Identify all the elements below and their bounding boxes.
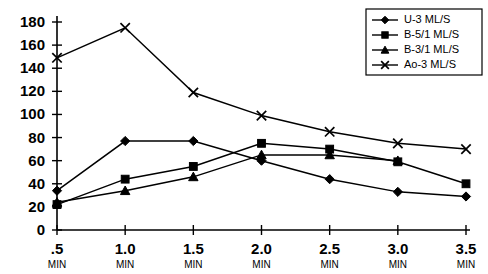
legend-item-label: U-3 ML/S (404, 13, 450, 25)
legend-item-label: B-5/1 ML/S (404, 28, 459, 40)
cross-marker-icon (257, 111, 266, 120)
diamond-marker-icon (461, 192, 470, 201)
y-tick-label: 120 (20, 82, 45, 99)
y-tick-label: 180 (20, 13, 45, 30)
x-tick-unit: MIN (389, 259, 407, 270)
y-tick-label: 100 (20, 105, 45, 122)
x-tick-label: .5 (51, 240, 64, 257)
diamond-marker-icon (325, 175, 334, 184)
x-tick-unit: MIN (48, 259, 66, 270)
x-tick-label: 2.5 (319, 240, 340, 257)
x-tick-unit: MIN (252, 259, 270, 270)
x-tick-label: 1.0 (115, 240, 136, 257)
square-marker-icon (382, 32, 388, 38)
diamond-marker-icon (189, 136, 198, 145)
chart-legend: U-3 ML/SB-5/1 ML/SB-3/1 ML/SAo-3 ML/S (366, 9, 482, 75)
y-tick-label: 80 (28, 129, 45, 146)
cross-marker-icon (120, 23, 129, 32)
diamond-marker-icon (393, 187, 402, 196)
legend-item-label: Ao-3 ML/S (404, 58, 456, 70)
legend-item-label: B-3/1 ML/S (404, 43, 459, 55)
x-tick-unit: MIN (457, 259, 475, 270)
x-axis-ticks: .5MIN1.0MIN1.5MIN2.0MIN2.5MIN3.0MIN3.5MI… (48, 225, 477, 270)
y-tick-label: 140 (20, 59, 45, 76)
y-tick-label: 60 (28, 152, 45, 169)
series-polyline (57, 155, 398, 202)
square-marker-icon (121, 175, 129, 183)
y-tick-label: 40 (28, 175, 45, 192)
square-marker-icon (258, 139, 266, 147)
y-tick-label: 160 (20, 36, 45, 53)
series-b-3-1-ml-s (52, 150, 402, 206)
line-chart: 020406080100120140160180 .5MIN1.0MIN1.5M… (0, 0, 488, 274)
x-tick-label: 3.5 (456, 240, 477, 257)
y-tick-label: 0 (37, 221, 45, 238)
chart-canvas: 020406080100120140160180 .5MIN1.0MIN1.5M… (0, 0, 488, 274)
x-tick-unit: MIN (116, 259, 134, 270)
x-tick-unit: MIN (320, 259, 338, 270)
cross-marker-icon (189, 88, 198, 97)
x-tick-unit: MIN (184, 259, 202, 270)
x-tick-label: 2.0 (251, 240, 272, 257)
square-marker-icon (462, 180, 470, 188)
x-tick-label: 3.0 (387, 240, 408, 257)
x-tick-label: 1.5 (183, 240, 204, 257)
y-tick-label: 20 (28, 198, 45, 215)
square-marker-icon (189, 163, 197, 171)
